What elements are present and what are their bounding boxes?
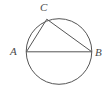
vertex-label-a: A [10,46,17,57]
geometry-figure: A B C [0,0,112,93]
chord-ac-line [26,19,46,52]
vertex-label-c: C [40,2,47,13]
vertex-label-b: B [95,47,102,58]
chord-cb-line [47,19,92,52]
